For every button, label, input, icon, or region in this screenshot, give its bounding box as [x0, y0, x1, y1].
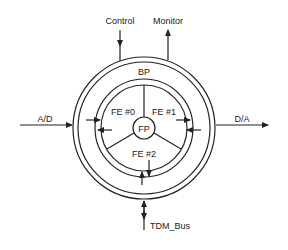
label-monitor: Monitor [153, 16, 183, 26]
architecture-diagram: Control Monitor BP A/D D/A FE #0 FE #1 F… [0, 0, 288, 250]
fe-divider-right [154, 133, 181, 149]
label-fe0: FE #0 [111, 107, 135, 117]
label-fe2: FE #2 [132, 149, 156, 159]
label-da: D/A [234, 114, 249, 124]
label-control: Control [105, 16, 134, 26]
label-bp: BP [138, 67, 150, 77]
fe-divider-left [107, 133, 134, 149]
label-tdm-bus: TDM_Bus [150, 221, 191, 231]
label-fp: FP [138, 124, 150, 134]
label-ad: A/D [37, 114, 53, 124]
label-fe1: FE #1 [152, 107, 176, 117]
